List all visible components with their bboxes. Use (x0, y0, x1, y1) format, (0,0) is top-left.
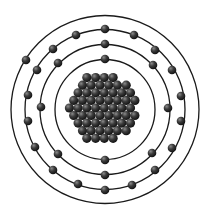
electron (37, 103, 46, 112)
electron (149, 61, 158, 70)
electron (33, 66, 42, 75)
electron (49, 45, 58, 54)
nucleon (109, 134, 118, 143)
nucleus (65, 73, 140, 143)
electron (130, 31, 139, 40)
electron (24, 117, 33, 126)
electron (101, 156, 110, 165)
electron (101, 186, 110, 195)
electron (72, 31, 81, 40)
nucleon (122, 126, 131, 135)
electron (74, 180, 83, 189)
electron (148, 149, 157, 158)
electron (177, 117, 186, 126)
electron (168, 66, 177, 75)
electron (177, 92, 186, 101)
electron (54, 150, 63, 159)
electron (22, 56, 31, 65)
electron (101, 25, 110, 34)
electron (151, 46, 160, 55)
electron (164, 104, 173, 113)
electron (168, 144, 177, 153)
electron (128, 181, 137, 190)
electron (101, 55, 110, 64)
nucleon (91, 134, 100, 143)
atom-diagram (0, 0, 208, 217)
nucleon (82, 134, 91, 143)
nucleon (100, 134, 109, 143)
electron (101, 40, 110, 49)
electron (151, 166, 160, 175)
electron (54, 59, 63, 68)
electron (101, 171, 110, 180)
electron (49, 166, 58, 175)
electron (31, 143, 40, 152)
electron (24, 91, 33, 100)
